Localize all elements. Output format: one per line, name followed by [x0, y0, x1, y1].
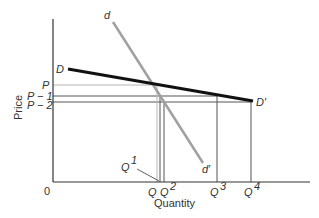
price-guides — [53, 85, 251, 102]
label-q1-sup: 1 — [131, 154, 137, 166]
q1-pointer — [137, 169, 159, 181]
demand-diagram: D D′ d d′ P P − 1 P − 2 Q 1 Q Q 2 Q 3 Q … — [0, 0, 319, 218]
label-p2: P − 2 — [27, 99, 53, 111]
label-D-prime: D′ — [256, 96, 267, 108]
label-q4-sup: 4 — [254, 180, 260, 192]
label-q3: Q — [210, 186, 219, 198]
label-q3-sup: 3 — [220, 180, 227, 192]
label-D: D — [56, 63, 64, 75]
inelastic-demand-curve — [113, 22, 203, 163]
label-q4: Q — [244, 186, 253, 198]
label-q1: Q — [121, 161, 130, 173]
label-d: d — [104, 9, 111, 21]
x-axis-label: Quantity — [154, 197, 195, 209]
y-axis-label: Price — [12, 95, 24, 120]
origin-label: 0 — [44, 185, 50, 197]
label-d-prime: d′ — [202, 163, 211, 175]
label-q2-sup: 2 — [169, 180, 176, 192]
